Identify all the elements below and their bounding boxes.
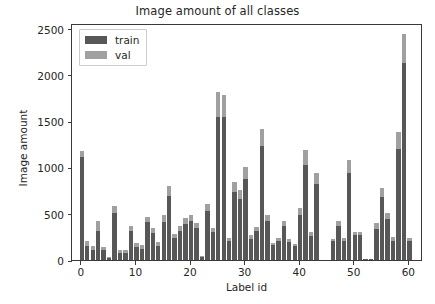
legend-item-val: val [85, 49, 139, 61]
bar-segment-val [243, 167, 247, 179]
bar-segment-train [407, 241, 411, 260]
bar-segment-train [156, 246, 160, 260]
bar-segment-train [211, 232, 215, 260]
bar-segment-train [118, 253, 122, 260]
bar [331, 239, 335, 260]
bar [162, 215, 166, 260]
bar-segment-val [238, 190, 242, 199]
bar [402, 34, 406, 260]
bar-segment-train [178, 231, 182, 260]
x-tick-mark [135, 261, 136, 265]
bar-segment-train [314, 184, 318, 260]
bar [254, 227, 258, 260]
bar-segment-val [96, 221, 100, 231]
bar [298, 208, 302, 260]
bar-segment-train [145, 222, 149, 260]
bar [200, 256, 204, 260]
bar-segment-train [216, 117, 220, 260]
bar-segment-train [194, 228, 198, 260]
bar-segment-train [374, 229, 378, 260]
bar-segment-train [123, 253, 127, 260]
bar [145, 217, 149, 261]
bar [238, 190, 242, 260]
bar-segment-val [112, 206, 116, 213]
bar [380, 188, 384, 260]
bar-segment-train [140, 249, 144, 260]
bar-segment-val [396, 132, 400, 150]
bar [314, 173, 318, 260]
bar-segment-train [347, 173, 351, 260]
x-tick-label: 40 [292, 266, 305, 278]
bar-segment-train [151, 233, 155, 260]
x-tick-mark [353, 261, 354, 265]
bar-segment-train [243, 179, 247, 260]
bar-segment-train [227, 241, 231, 260]
bar-segment-train [85, 246, 89, 260]
bar [91, 246, 95, 260]
x-tick-label: 60 [402, 266, 415, 278]
legend-label-val: val [115, 50, 131, 61]
bar [276, 238, 280, 260]
bar-segment-val [222, 95, 226, 118]
bar-segment-train [380, 197, 384, 260]
x-tick-mark [190, 261, 191, 265]
bar-segment-train [309, 236, 313, 260]
bar-segment-train [396, 149, 400, 260]
bar-segment-train [265, 221, 269, 260]
bar [282, 221, 286, 260]
bar [342, 238, 346, 260]
bar [243, 167, 247, 260]
bar [167, 186, 171, 260]
bar-segment-train [222, 117, 226, 260]
bar [183, 218, 187, 260]
bar [216, 92, 220, 260]
bar-segment-train [101, 250, 105, 260]
bar [151, 228, 155, 260]
bar [260, 129, 264, 260]
bar [211, 228, 215, 260]
bar-segment-val [314, 173, 318, 185]
bar [369, 259, 373, 260]
bar-segment-train [205, 211, 209, 260]
bar [96, 221, 100, 260]
chart-title: Image amount of all classes [0, 4, 435, 18]
x-tick-label: 10 [129, 266, 142, 278]
bar-segment-train [282, 226, 286, 260]
legend-item-train: train [85, 34, 139, 46]
bar-segment-train [249, 239, 253, 260]
bar [194, 223, 198, 260]
bar-segment-train [162, 222, 166, 260]
legend-label-train: train [115, 35, 139, 46]
bar-segment-train [183, 224, 187, 260]
bar-segment-val [216, 92, 220, 117]
bar-segment-train [271, 245, 275, 260]
bar-segment-train [331, 241, 335, 260]
bar [227, 238, 231, 260]
bar [396, 132, 400, 260]
bar-segment-train [91, 250, 95, 260]
bar [249, 235, 253, 260]
bar [232, 182, 236, 260]
bar-segment-train [96, 231, 100, 260]
bar [293, 244, 297, 260]
bar-segment-train [200, 257, 204, 260]
chart-legend: train val [79, 29, 147, 66]
bar [407, 238, 411, 260]
x-tick-label: 30 [238, 266, 251, 278]
x-axis-label: Label id [71, 281, 422, 293]
bar-segment-train [134, 247, 138, 260]
bar-segment-train [298, 215, 302, 260]
y-tick-label: 1000 [37, 162, 64, 174]
bar-segment-train [276, 241, 280, 260]
bar [353, 232, 357, 260]
bar [118, 250, 122, 260]
bar [336, 221, 340, 260]
x-tick-label: 20 [183, 266, 196, 278]
bar-segment-train [353, 235, 357, 260]
y-tick-label: 2500 [37, 24, 64, 36]
bar [123, 250, 127, 260]
x-tick-label: 0 [77, 266, 84, 278]
bar-segment-val [232, 182, 236, 192]
bar [205, 204, 209, 260]
bar-segment-val [205, 204, 209, 211]
